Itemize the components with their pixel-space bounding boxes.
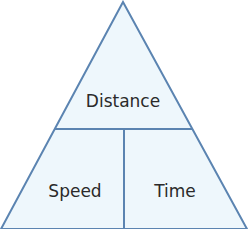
label-time: Time [153, 181, 196, 201]
label-distance: Distance [86, 91, 160, 111]
label-speed: Speed [48, 181, 101, 201]
formula-triangle: Distance Speed Time [0, 0, 248, 229]
